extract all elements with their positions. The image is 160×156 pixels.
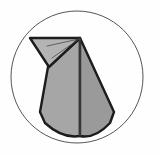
origami-figure <box>0 0 160 156</box>
figure-canvas: Origami fold diagram <box>0 0 160 156</box>
